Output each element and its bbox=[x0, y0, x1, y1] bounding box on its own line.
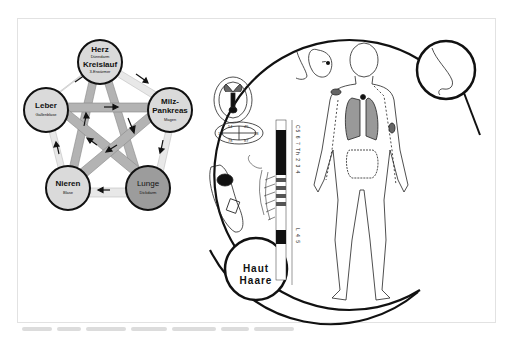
milz-title: Milz- bbox=[148, 98, 192, 106]
small-nose-icon bbox=[296, 52, 307, 79]
tooth-label: 28 bbox=[254, 131, 258, 136]
haare-text: Haare bbox=[231, 275, 281, 287]
leber-title: Leber bbox=[24, 102, 68, 110]
tooth-label: 87 bbox=[244, 138, 248, 143]
herz-subtitle: Dünndarm bbox=[78, 55, 122, 59]
spine-column bbox=[276, 120, 292, 285]
haut-text: Haut bbox=[231, 263, 281, 275]
tooth-label: 54 bbox=[228, 124, 232, 129]
node-herz-label: Herz Dünndarm Kreislauf 3-Erwärmer bbox=[78, 46, 122, 74]
node-lunge-label: Lunge Dickdarm bbox=[126, 180, 170, 195]
nieren-title: Nieren bbox=[46, 180, 90, 188]
pankreas-title: Pankreas bbox=[148, 107, 192, 115]
milz-subtitle: Magen bbox=[148, 118, 192, 122]
kreislauf-subtitle: 3-Erwärmer bbox=[78, 70, 122, 74]
mouth-icon bbox=[214, 77, 252, 123]
spine-label-lower: L 4 5 bbox=[295, 228, 301, 244]
tooth-label: 18 bbox=[218, 131, 222, 136]
lunge-title: Lunge bbox=[126, 180, 170, 188]
leber-subtitle: Gallenblase bbox=[24, 113, 68, 117]
node-leber-label: Leber Gallenblase bbox=[24, 102, 68, 117]
nieren-subtitle: Blase bbox=[46, 191, 90, 195]
lunge-subtitle: Dickdarm bbox=[126, 191, 170, 195]
node-milz-label: Milz- Pankreas Magen bbox=[148, 98, 192, 122]
node-nieren-label: Nieren Blase bbox=[46, 180, 90, 195]
spine-label-upper: C5 6 7 Th 2 3 4 bbox=[295, 125, 301, 174]
herz-title: Herz bbox=[78, 46, 122, 54]
human-body-figure bbox=[314, 43, 408, 300]
figure-caption bbox=[22, 327, 312, 333]
tooth-label: 78 bbox=[228, 138, 232, 143]
tooth-label: 45 bbox=[244, 124, 248, 129]
skin-circle-label: Haut Haare bbox=[231, 263, 281, 287]
diagram-canvas bbox=[0, 0, 513, 339]
spine-ribs-icon bbox=[248, 155, 275, 220]
kreislauf-title: Kreislauf bbox=[78, 61, 122, 69]
